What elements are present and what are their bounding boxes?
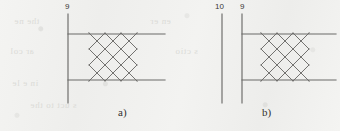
panel-caption-a: a) [118, 106, 127, 118]
leader-label-10-b: 10 [215, 2, 224, 11]
leader-label-9-b: 9 [240, 2, 244, 11]
leader-label-9-a: 9 [65, 2, 69, 11]
figure-drawing [0, 0, 340, 131]
panel-caption-b: b) [262, 106, 271, 118]
